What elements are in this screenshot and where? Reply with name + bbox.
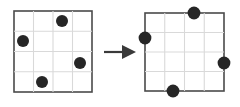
transformation-arrow	[104, 45, 136, 59]
dot-left	[17, 35, 29, 47]
diagram-canvas	[0, 0, 240, 107]
dot-right-edge	[218, 57, 231, 70]
dot-right	[74, 57, 86, 69]
diagram-svg	[0, 0, 240, 107]
result-grid	[139, 7, 231, 98]
dot-bottom-edge	[167, 85, 180, 98]
dot-left-edge	[139, 32, 152, 45]
dot-bottom	[36, 76, 48, 88]
source-grid	[14, 11, 92, 92]
dot-top	[56, 15, 68, 27]
dot-top-edge	[188, 7, 201, 20]
arrow-head-icon	[122, 45, 136, 59]
